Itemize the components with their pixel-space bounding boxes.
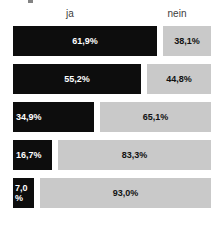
stacked-bar-chart: ja nein 61,9% 38,1% 55,2% 44,8% 34,9%: [0, 0, 223, 235]
bar-segment-ja: 7,0 %: [13, 178, 34, 208]
table-row: 61,9% 38,1%: [13, 26, 211, 56]
plot-area: 61,9% 38,1% 55,2% 44,8% 34,9% 65,1%: [13, 26, 211, 227]
table-row: 34,9% 65,1%: [13, 102, 211, 132]
bar-segment-nein: 65,1%: [100, 102, 211, 132]
bar-segment-ja: 55,2%: [13, 64, 141, 94]
table-row: 7,0 % 93,0%: [13, 178, 211, 208]
table-row: 55,2% 44,8%: [13, 64, 211, 94]
bar-segment-ja: 16,7%: [13, 140, 52, 170]
cropped-title-remnant: [28, 0, 33, 3]
bar-value-ja: 16,7%: [13, 150, 52, 160]
bar-segment-nein: 44,8%: [147, 64, 211, 94]
bar-value-nein: 38,1%: [163, 36, 211, 46]
bar-value-nein: 83,3%: [58, 150, 211, 160]
chart-legend: ja nein: [13, 6, 211, 22]
legend-label-nein: nein: [150, 6, 204, 22]
legend-label-ja: ja: [43, 6, 97, 22]
table-row: 16,7% 83,3%: [13, 140, 211, 170]
bar-value-nein: 44,8%: [147, 74, 211, 84]
bar-segment-ja: 61,9%: [13, 26, 157, 56]
bar-value-ja: 61,9%: [13, 36, 157, 46]
bar-value-nein: 65,1%: [100, 112, 211, 122]
bar-segment-ja: 34,9%: [13, 102, 94, 132]
bar-segment-nein: 93,0%: [40, 178, 211, 208]
bar-value-ja: 34,9%: [13, 112, 94, 122]
bar-segment-nein: 38,1%: [163, 26, 211, 56]
bar-value-ja: 7,0 %: [13, 183, 34, 203]
bar-segment-nein: 83,3%: [58, 140, 211, 170]
bar-value-ja: 55,2%: [13, 74, 141, 84]
bar-value-nein: 93,0%: [40, 188, 211, 198]
